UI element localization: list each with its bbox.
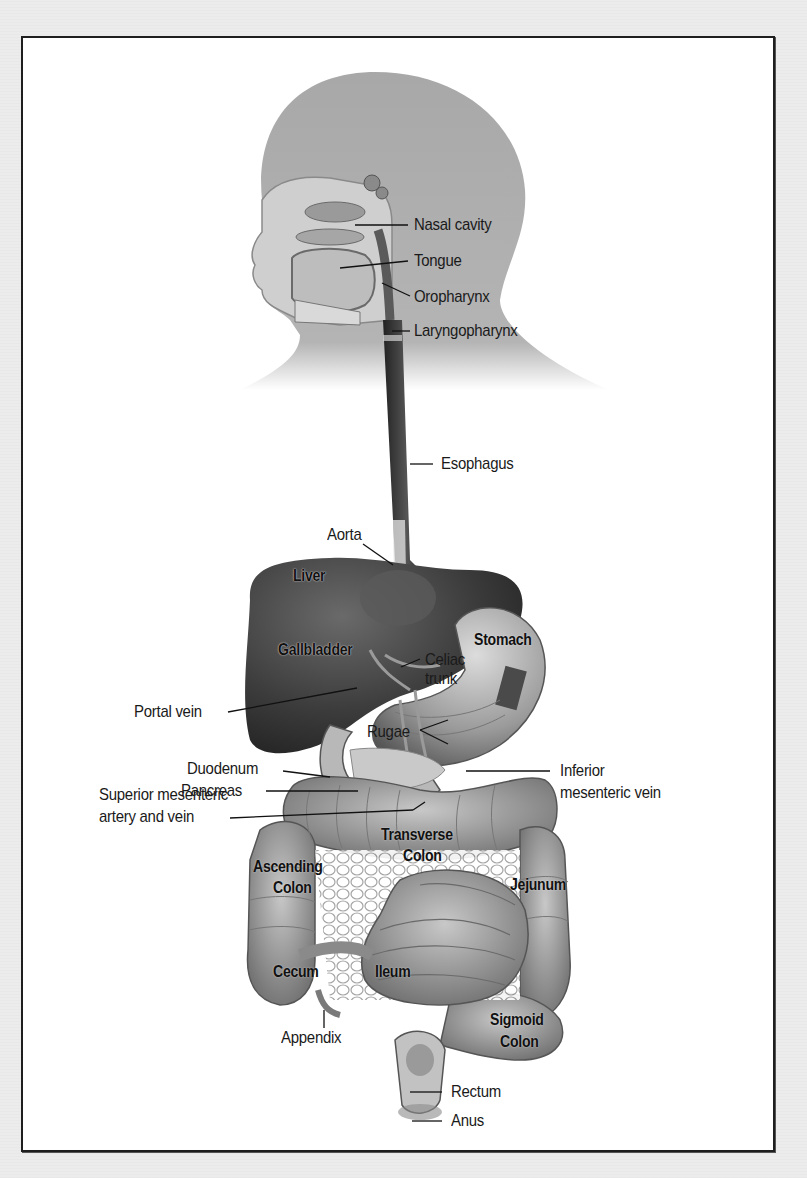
- label-transverse-colon-line1: Transverse: [381, 825, 453, 845]
- label-transverse-colon-line2: Colon: [403, 846, 442, 866]
- label-celiac-trunk-line2: trunk: [425, 669, 457, 689]
- label-cecum: Cecum: [273, 962, 319, 982]
- label-stomach: Stomach: [474, 630, 532, 650]
- label-tongue: Tongue: [414, 251, 462, 271]
- label-duodenum: Duodenum: [187, 759, 258, 779]
- label-gallbladder: Gallbladder: [278, 640, 353, 660]
- label-nasal-cavity: Nasal cavity: [414, 215, 491, 235]
- label-superior-mesenteric-line2: artery and vein: [99, 807, 194, 827]
- label-rugae: Rugae: [367, 722, 410, 742]
- label-celiac-trunk-line1: Celiac: [425, 650, 465, 670]
- label-sigmoid-colon-line2: Colon: [500, 1032, 539, 1052]
- label-anus: Anus: [451, 1111, 484, 1131]
- label-ascending-colon-line2: Colon: [273, 878, 312, 898]
- label-esophagus: Esophagus: [441, 454, 513, 474]
- label-appendix: Appendix: [281, 1028, 341, 1048]
- label-oropharynx: Oropharynx: [414, 287, 490, 307]
- label-ileum: Ileum: [375, 962, 410, 982]
- label-rectum: Rectum: [451, 1082, 501, 1102]
- label-inferior-mesenteric-line1: Inferior: [560, 761, 604, 781]
- label-liver: Liver: [293, 566, 325, 586]
- label-laryngopharynx: Laryngopharynx: [414, 321, 518, 341]
- label-inferior-mesenteric-line2: mesenteric vein: [560, 783, 661, 803]
- label-jejunum: Jejunum: [510, 875, 566, 895]
- label-portal-vein: Portal vein: [134, 702, 202, 722]
- label-superior-mesenteric-line1: Superior mesenteric: [99, 785, 228, 805]
- label-ascending-colon-line1: Ascending: [253, 857, 323, 877]
- digestive-system-illustration: [0, 0, 807, 1178]
- label-sigmoid-colon-line1: Sigmoid: [490, 1010, 544, 1030]
- label-aorta: Aorta: [327, 525, 361, 545]
